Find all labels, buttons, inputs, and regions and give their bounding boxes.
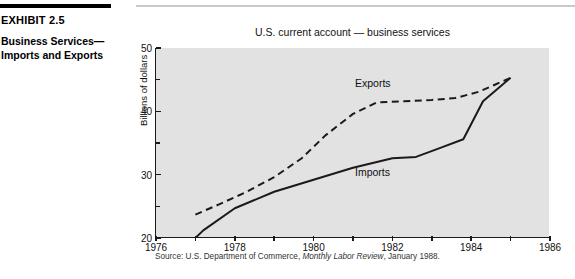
y-tick-minor — [156, 142, 160, 144]
x-tick-label: 1986 — [539, 242, 561, 253]
chart-title: U.S. current account — business services — [155, 26, 550, 38]
x-tick-minor — [431, 236, 433, 241]
x-tick-major — [234, 236, 236, 241]
y-tick-label: 40 — [141, 106, 152, 117]
series-line-imports — [195, 78, 510, 238]
y-tick-label: 50 — [141, 43, 152, 54]
x-tick-minor — [273, 236, 275, 241]
x-tick-minor — [352, 236, 354, 241]
source-prefix: Source: U.S. Department of Commerce, — [155, 252, 302, 261]
source-note: Source: U.S. Department of Commerce, Mon… — [155, 252, 440, 261]
x-tick-major — [155, 236, 157, 241]
y-tick-major — [156, 237, 161, 239]
x-tick-major — [470, 236, 472, 241]
chart-figure: U.S. current account — business services… — [0, 0, 575, 279]
x-tick-minor — [510, 236, 512, 241]
source-publication: Monthly Labor Review — [302, 252, 383, 261]
y-tick-minor — [156, 206, 160, 208]
x-tick-label: 1984 — [460, 242, 482, 253]
y-tick-minor — [156, 79, 160, 81]
series-line-exports — [195, 78, 510, 215]
series-label-imports: Imports — [355, 166, 390, 178]
y-tick-major — [156, 174, 161, 176]
y-tick-major — [156, 47, 161, 49]
source-suffix: , January 1988. — [383, 252, 439, 261]
x-tick-major — [549, 236, 551, 241]
exhibit-page: EXHIBIT 2.5 Business Services— Imports a… — [0, 0, 575, 279]
plot-lines — [156, 48, 550, 238]
y-tick-major — [156, 111, 161, 113]
series-label-exports: Exports — [355, 77, 391, 89]
y-tick-label: 30 — [141, 169, 152, 180]
x-tick-major — [313, 236, 315, 241]
x-tick-minor — [195, 236, 197, 241]
x-tick-major — [392, 236, 394, 241]
plot-area: Billions of dollars 20304050197619781980… — [155, 48, 549, 238]
